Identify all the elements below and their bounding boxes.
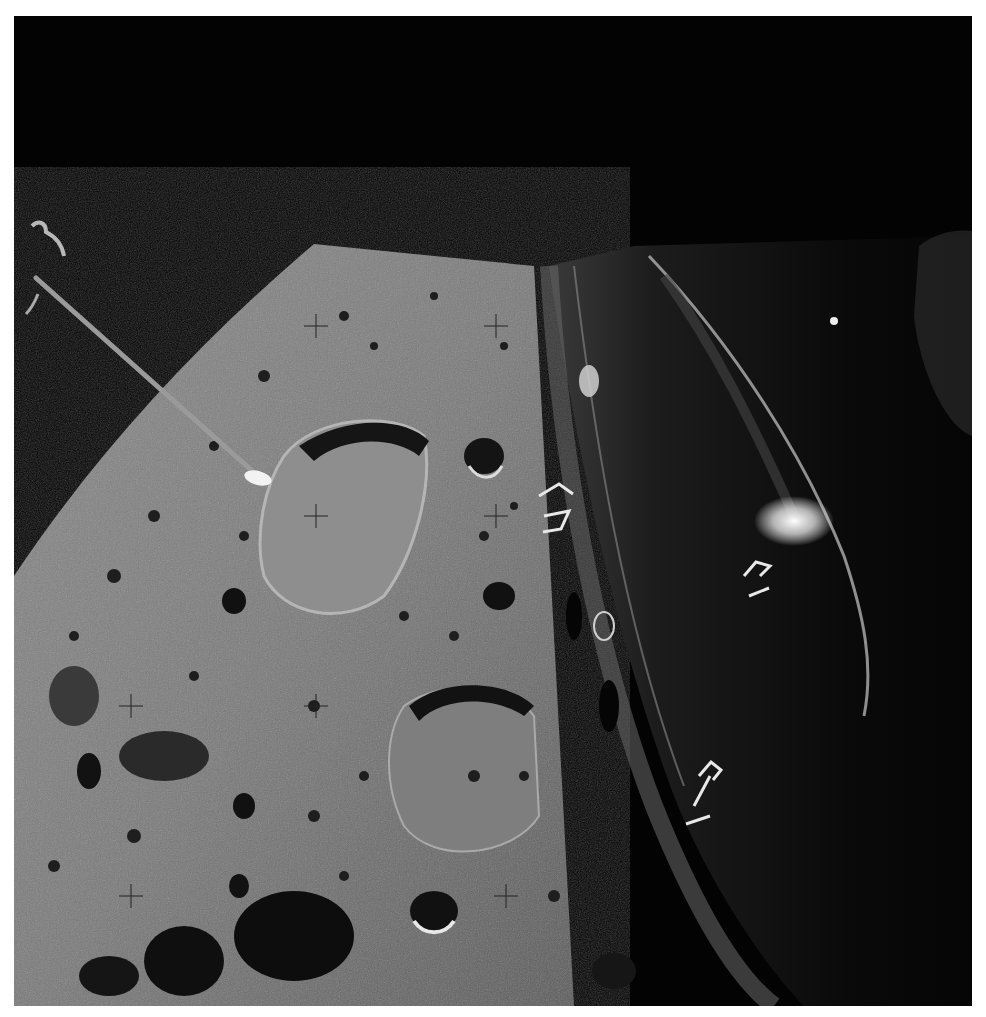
spacecraft-hull: [539, 236, 972, 1006]
lunar-photograph: [14, 16, 972, 1006]
lunar-surface: [14, 244, 636, 1006]
lunar-scene: [14, 16, 972, 1006]
